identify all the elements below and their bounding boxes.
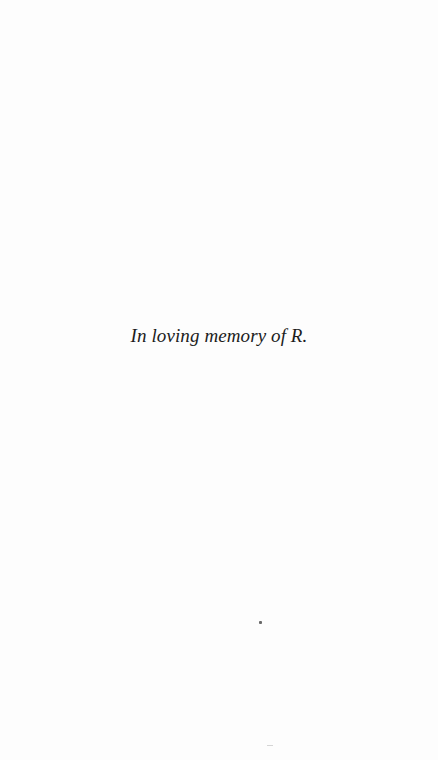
print-mark (267, 745, 273, 746)
print-speck (259, 621, 262, 624)
dedication-text: In loving memory of R. (0, 325, 438, 347)
book-page: In loving memory of R. (0, 0, 438, 760)
